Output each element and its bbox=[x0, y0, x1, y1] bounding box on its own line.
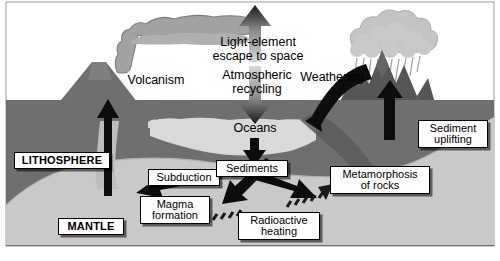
label-oceans: Oceans bbox=[226, 122, 284, 136]
label-mantle: MANTLE bbox=[58, 218, 124, 235]
label-sediment-uplifting: Sediment uplifting bbox=[418, 120, 488, 148]
label-magma-formation: Magma formation bbox=[140, 196, 210, 224]
label-lithosphere: LITHOSPHERE bbox=[14, 152, 110, 169]
label-sediments: Sediments bbox=[216, 160, 288, 177]
label-light-element-escape: Light-element escape to space bbox=[196, 36, 320, 63]
diagram-canvas: Volcanism Light-element escape to space … bbox=[0, 0, 500, 261]
label-subduction: Subduction bbox=[148, 169, 220, 186]
label-radioactive-heating: Radioactive heating bbox=[238, 212, 320, 240]
label-weathering: Weathering bbox=[292, 71, 372, 85]
label-volcanism: Volcanism bbox=[118, 74, 194, 88]
label-metamorphosis-of-rocks: Metamorphosis of rocks bbox=[330, 166, 430, 194]
